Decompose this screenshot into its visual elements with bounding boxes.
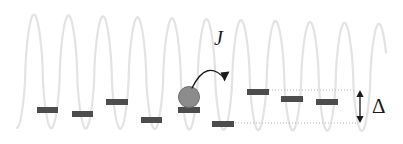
energy-level-bar-site-9	[316, 99, 338, 105]
offset-arrowhead-up-icon	[356, 90, 363, 97]
energy-level-bar-site-4	[141, 117, 162, 123]
atom-group	[179, 87, 200, 108]
energy-offset-label: Δ	[372, 94, 386, 119]
energy-level-bar-site-1	[37, 107, 58, 113]
energy-level-bar-site-3	[106, 99, 128, 105]
energy-level-bar-site-7	[247, 89, 269, 95]
offset-measure-group	[356, 90, 363, 123]
lattice-diagram-canvas	[0, 0, 403, 144]
tunneling-coupling-label: J	[214, 27, 223, 50]
atom-circle	[179, 87, 200, 108]
energy-level-bar-site-2	[72, 111, 93, 117]
energy-level-bar-site-8	[281, 96, 303, 102]
energy-level-bar-site-6	[212, 121, 234, 127]
lattice-figure: J Δ	[0, 0, 403, 144]
